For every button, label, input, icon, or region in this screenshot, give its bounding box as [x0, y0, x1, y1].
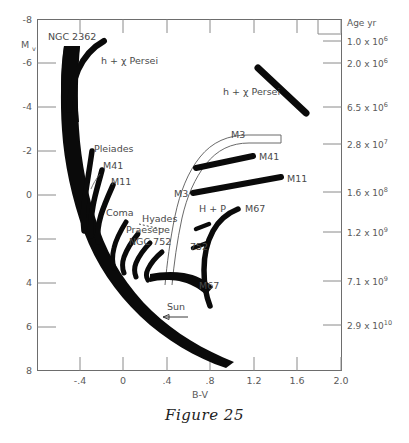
label-m11-bar: M11	[287, 173, 307, 184]
bottom-tick-label: 2.0	[333, 375, 348, 386]
left-axis-title-sub: v	[32, 45, 36, 53]
left-tick-label: 0	[26, 189, 32, 200]
age-tick-label: 1.6 x 108	[347, 186, 388, 198]
m11-giant-bar	[193, 177, 281, 193]
label-h-plus-p: H + P	[199, 203, 226, 214]
label-hyades: Hyades	[142, 213, 177, 224]
bottom-tick-label: 1.6	[289, 375, 304, 386]
label-coma: Coma	[106, 207, 134, 218]
h-plus-p-segment-upper	[196, 224, 209, 229]
left-tick-label: 8	[26, 365, 32, 376]
figure-caption: Figure 25	[0, 406, 409, 424]
age-tick-label: 1.2 x 109	[347, 226, 388, 238]
left-ticks	[38, 63, 57, 327]
left-tick-label: 2	[26, 233, 32, 244]
age-tick-label: 2.9 x 1010	[347, 319, 392, 331]
left-tick-label: 4	[26, 277, 32, 288]
label-m67-bar: M67	[245, 203, 265, 214]
left-axis-title-main: M	[21, 39, 29, 50]
figure-25-color-magnitude-diagram: -8 -6 -4 -2 0 2 4 6 8 M v -.4 0 .4 .8 1.…	[0, 0, 409, 443]
age-tick-label: 2.8 x 107	[347, 138, 388, 150]
left-tick-label: -8	[23, 14, 32, 25]
label-m41-bar: M41	[259, 151, 279, 162]
bottom-tick-label: 1.2	[246, 375, 261, 386]
bottom-tick-label: -.4	[74, 375, 87, 386]
age-tick-label: 2.0 x 106	[347, 57, 388, 69]
right-ticks	[323, 41, 342, 325]
age-tick-label: 7.1 x 109	[347, 275, 388, 287]
bottom-axis-title: B-V	[192, 389, 208, 400]
age-axis-hook	[318, 20, 341, 35]
top-ticks	[80, 20, 341, 34]
label-m11-left: M11	[111, 176, 131, 187]
label-m41-left: M41	[103, 160, 123, 171]
label-m3-top: M3	[231, 129, 245, 140]
hr-diagram-plot: -8 -6 -4 -2 0 2 4 6 8 M v -.4 0 .4 .8 1.…	[0, 0, 409, 443]
age-tick-label: 6.5 x 106	[347, 101, 388, 113]
left-tick-label: 6	[26, 321, 32, 332]
right-axis-labels: Age yr 1.0 x 106 2.0 x 106 6.5 x 106 2.8…	[347, 18, 392, 331]
left-tick-label: -4	[23, 101, 32, 112]
left-axis-title: M v	[21, 39, 36, 53]
age-tick-label: 1.0 x 106	[347, 35, 388, 47]
label-m67-lower: M67	[199, 280, 219, 291]
label-sun: Sun	[167, 301, 185, 312]
bottom-tick-labels: -.4 0 .4 .8 1.2 1.6 2.0 B-V	[74, 375, 349, 400]
label-ngc-2362: NGC 2362	[48, 31, 96, 42]
label-752-short: 752	[190, 241, 208, 252]
left-tick-label: -2	[23, 145, 32, 156]
bottom-tick-label: 0	[120, 375, 126, 386]
left-tick-labels: -8 -6 -4 -2 0 2 4 6 8	[23, 14, 32, 376]
bottom-tick-label: .8	[205, 375, 214, 386]
bottom-tick-label: .4	[162, 375, 171, 386]
left-tick-label: -6	[23, 57, 32, 68]
label-m3-left: M3	[174, 188, 188, 199]
label-h-chi-persei-2: h + χ Persei	[223, 86, 280, 97]
m41-giant-bar	[196, 156, 253, 168]
label-h-chi-persei-1: h + χ Persei	[101, 55, 158, 66]
sun-marker-arrow	[163, 315, 188, 320]
label-pleiades: Pleiades	[94, 143, 134, 154]
label-praesepe: Praesepe	[126, 224, 170, 235]
label-ngc-752: NGC 752	[129, 236, 171, 247]
right-axis-title: Age yr	[347, 18, 377, 28]
